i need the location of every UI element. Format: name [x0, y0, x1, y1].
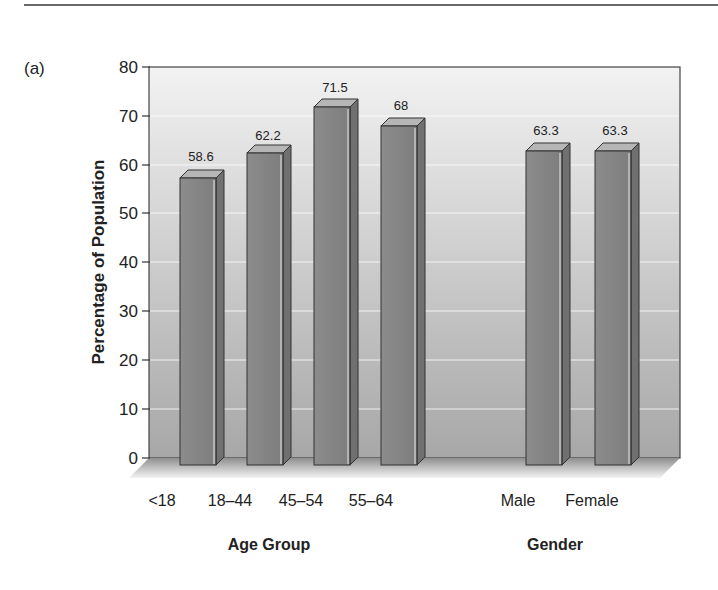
bar-female [595, 143, 639, 465]
x-label-under-18: <18 [148, 492, 175, 510]
y-tick-labels: 0 10 20 30 40 50 60 70 80 [119, 58, 138, 468]
bar-18-44 [247, 145, 291, 465]
value-label-18-44: 62.2 [255, 128, 280, 143]
value-label-45-54: 71.5 [322, 80, 347, 95]
bar-55-64 [381, 118, 425, 465]
y-tick-30: 30 [119, 302, 138, 321]
y-tick-80: 80 [119, 58, 138, 77]
value-label-55-64: 68 [394, 98, 408, 113]
bar-45-54 [314, 99, 358, 465]
y-tick-40: 40 [119, 253, 138, 272]
x-label-18-44: 18–44 [208, 492, 253, 510]
y-tick-70: 70 [119, 107, 138, 126]
y-tick-0: 0 [129, 449, 138, 468]
y-tick-20: 20 [119, 351, 138, 370]
group-label-age: Age Group [228, 536, 311, 554]
bar-under-18 [180, 170, 224, 465]
value-label-female: 63.3 [602, 123, 627, 138]
y-tick-50: 50 [119, 204, 138, 223]
y-tick-10: 10 [119, 400, 138, 419]
y-tick-60: 60 [119, 156, 138, 175]
value-label-under-18: 58.6 [188, 149, 213, 164]
value-label-male: 63.3 [533, 123, 558, 138]
group-label-gender: Gender [527, 536, 583, 554]
bar-male [526, 143, 570, 465]
x-label-male: Male [501, 492, 536, 510]
x-label-female: Female [565, 492, 618, 510]
x-label-45-54: 45–54 [279, 492, 324, 510]
x-label-55-64: 55–64 [349, 492, 394, 510]
